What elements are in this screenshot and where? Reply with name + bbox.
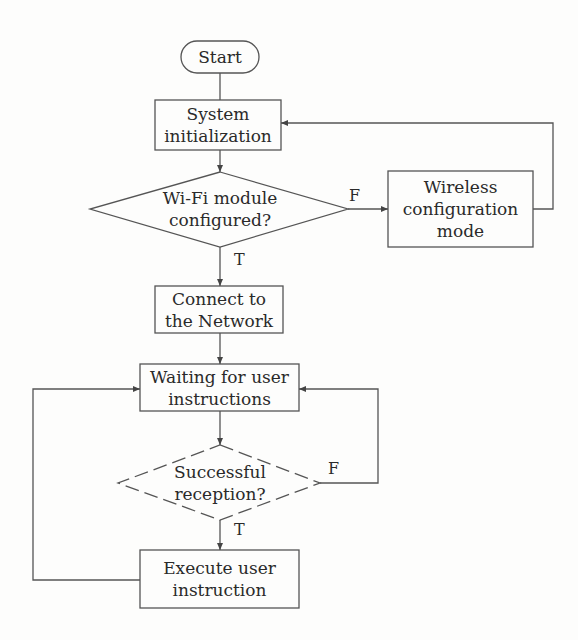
edge-execute-loop bbox=[33, 389, 140, 580]
flowchart-shapes bbox=[0, 0, 578, 640]
wifi-decision-label: Wi-Fi module configured? bbox=[120, 184, 320, 234]
waiting-label: Waiting for user instructions bbox=[140, 364, 299, 411]
execute-label: Execute user instruction bbox=[140, 550, 299, 608]
start-label: Start bbox=[181, 41, 259, 73]
flowchart-canvas: Start System initialization Wi-Fi module… bbox=[0, 0, 578, 640]
reception-true-label: T bbox=[234, 520, 245, 539]
wifi-false-label: F bbox=[349, 186, 360, 205]
reception-false-label: F bbox=[328, 459, 339, 478]
wifi-true-label: T bbox=[234, 250, 245, 269]
connect-label: Connect to the Network bbox=[155, 286, 283, 333]
reception-decision-label: Successful reception? bbox=[140, 458, 300, 508]
system-init-label: System initialization bbox=[155, 100, 281, 150]
wireless-config-label: Wireless configuration mode bbox=[388, 171, 533, 247]
